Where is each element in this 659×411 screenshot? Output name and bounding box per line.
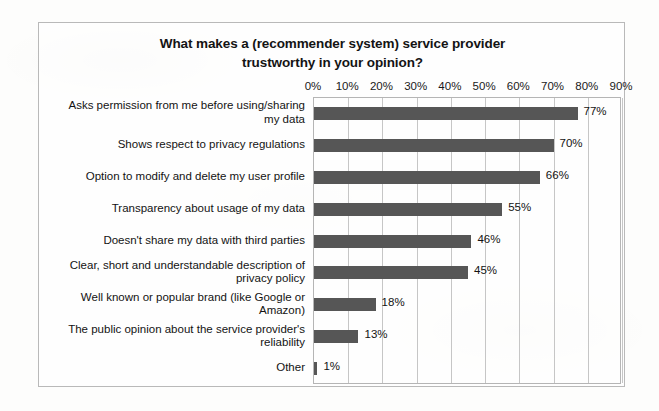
category-label: Well known or popular brand (like Google… [39,291,305,318]
category-label: Doesn't share my data with third parties [39,234,305,248]
bar[interactable] [314,235,471,248]
bar-row: 45% [314,257,621,289]
chart-frame: What makes a (recommender system) servic… [38,22,625,387]
category-label: Asks permission from me before using/sha… [39,99,305,126]
category-label-line: Option to modify and delete my user prof… [39,170,305,184]
category-label-line: The public opinion about the service pro… [39,323,305,337]
bar-value-label: 55% [502,201,531,213]
bar-row: 66% [314,162,621,194]
bar-row: 46% [314,226,621,258]
category-label-line: Amazon) [39,304,305,318]
bar[interactable] [314,107,578,120]
bar-value-label: 46% [471,233,500,245]
bar-row: 70% [314,130,621,162]
bar-row: 13% [314,321,621,353]
bar-value-label: 77% [578,105,607,117]
x-tick-label: 90% [601,80,641,92]
category-label-line: Clear, short and understandable descript… [39,259,305,273]
bar-row: 55% [314,194,621,226]
bar-value-label: 13% [358,328,387,340]
bar[interactable] [314,266,468,279]
category-label-line: reliability [39,336,305,350]
category-label: Clear, short and understandable descript… [39,259,305,286]
bar-value-label: 70% [554,137,583,149]
category-label: Other [39,361,305,375]
gridline [622,98,623,383]
chart-title: What makes a (recommender system) servic… [39,34,626,72]
category-label-line: Shows respect to privacy regulations [39,138,305,152]
category-label-line: Other [39,361,305,375]
category-label: The public opinion about the service pro… [39,323,305,350]
category-axis-labels: Asks permission from me before using/sha… [39,97,307,384]
bar[interactable] [314,203,502,216]
bar-value-label: 45% [468,264,497,276]
category-label-line: Transparency about usage of my data [39,202,305,216]
bar[interactable] [314,171,540,184]
x-axis-tick-labels: 0%10%20%30%40%50%60%70%80%90% [313,80,621,95]
chart-title-line-2: trustworthy in your opinion? [39,53,626,72]
bar[interactable] [314,298,376,311]
bar-value-label: 66% [540,169,569,181]
category-label: Shows respect to privacy regulations [39,138,305,152]
bar-value-label: 1% [317,360,340,372]
bar-value-label: 18% [376,296,405,308]
bar[interactable] [314,139,554,152]
category-label: Option to modify and delete my user prof… [39,170,305,184]
chart-title-line-1: What makes a (recommender system) servic… [39,34,626,53]
bar-row: 18% [314,289,621,321]
plot-area: 77%70%66%55%46%45%18%13%1% [313,97,621,384]
category-label: Transparency about usage of my data [39,202,305,216]
category-label-line: Asks permission from me before using/sha… [39,99,305,113]
category-label-line: Doesn't share my data with third parties [39,234,305,248]
bar[interactable] [314,330,358,343]
category-label-line: Well known or popular brand (like Google… [39,291,305,305]
category-label-line: my data [39,113,305,127]
category-label-line: privacy policy [39,272,305,286]
bar-row: 1% [314,353,621,385]
bar-row: 77% [314,98,621,130]
